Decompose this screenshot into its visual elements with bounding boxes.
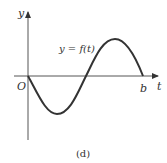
curve-label: y = f(t): [58, 43, 95, 54]
y-axis-label: y: [17, 7, 25, 20]
origin-label: O: [17, 80, 26, 93]
sine-diagram: y t O b y = f(t) (d): [0, 0, 167, 163]
t-axis-label: t: [157, 80, 162, 93]
endpoint-label-b: b: [140, 82, 147, 95]
figure-caption: (d): [76, 148, 90, 159]
